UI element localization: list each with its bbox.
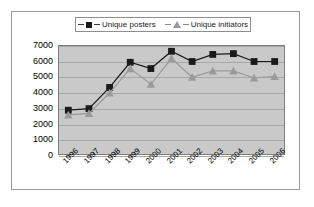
legend-line-icon: [183, 24, 189, 25]
y-axis-tick-label: 4000: [33, 87, 53, 97]
y-axis-tick-label: 0: [48, 150, 53, 160]
square-marker-icon: [189, 58, 196, 65]
y-axis-labels: 01000200030004000500060007000: [12, 39, 56, 161]
square-marker-icon: [86, 22, 92, 28]
legend-label: Unique initiators: [191, 21, 248, 29]
legend-line-icon: [94, 24, 100, 25]
series-line-triangle: [68, 58, 274, 115]
square-marker-icon: [230, 50, 237, 57]
square-marker-icon: [147, 65, 154, 72]
y-axis-tick-label: 1000: [33, 134, 53, 144]
y-axis-tick-label: 5000: [33, 71, 53, 81]
y-axis-tick-label: 6000: [33, 56, 53, 66]
y-axis-tick-label: 7000: [33, 40, 53, 50]
chart-figure: 01000200030004000500060007000 1996199719…: [11, 11, 300, 190]
square-marker-icon: [209, 51, 216, 58]
data-series-layer: [58, 45, 285, 155]
x-axis-labels: 1996199719981999200020012002200320042005…: [58, 157, 287, 191]
triangle-marker-icon: [173, 21, 181, 28]
plot-wrapper: 01000200030004000500060007000 1996199719…: [12, 12, 301, 191]
legend-line-icon: [165, 24, 171, 25]
legend-label: Unique posters: [102, 21, 156, 29]
chart-legend: Unique posters Unique initiators: [75, 17, 251, 32]
square-marker-icon: [271, 58, 278, 65]
y-axis-tick-label: 3000: [33, 103, 53, 113]
legend-line-icon: [78, 24, 84, 25]
y-axis-tick-label: 2000: [33, 119, 53, 129]
legend-entry-unique-initiators: Unique initiators: [165, 21, 248, 29]
square-marker-icon: [168, 48, 175, 55]
triangle-marker-icon: [167, 54, 175, 62]
legend-entry-unique-posters: Unique posters: [78, 21, 156, 29]
square-marker-icon: [251, 58, 258, 65]
